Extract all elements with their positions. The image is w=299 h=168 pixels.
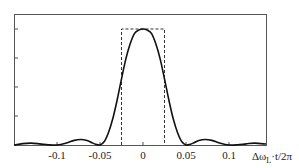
spectrum-curve bbox=[14, 29, 266, 145]
plot-frame bbox=[15, 15, 267, 146]
x-tick-label: -0.05 bbox=[89, 149, 112, 161]
x-axis-label: ΔωL·t/2π bbox=[252, 150, 292, 165]
x-tick-label: 0 bbox=[140, 149, 146, 161]
x-axis-ticks: -0.1-0.0500.050.1 bbox=[48, 142, 236, 161]
x-tick-label: 0.05 bbox=[176, 149, 196, 161]
chart: -0.1-0.0500.050.1 ΔωL·t/2π bbox=[0, 0, 299, 168]
y-axis-ticks bbox=[15, 29, 19, 116]
x-tick-label: 0.1 bbox=[222, 149, 236, 161]
x-tick-label: -0.1 bbox=[48, 149, 65, 161]
rectangular-window-dashed-line bbox=[122, 29, 165, 145]
